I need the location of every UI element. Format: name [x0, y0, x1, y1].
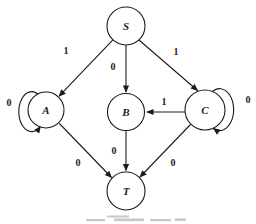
edge-label-A-T: 0 — [76, 157, 81, 168]
edge-label-S-B: 0 — [111, 61, 116, 72]
state-diagram: S A B C T 1 0 1 1 0 0 0 0 0 — [0, 0, 256, 224]
edge-S-to-C — [139, 40, 198, 91]
edge-label-C-B: 1 — [162, 96, 167, 107]
edge-label-S-C: 1 — [174, 46, 179, 57]
edge-A-to-T — [59, 124, 111, 178]
edge-label-C-T: 0 — [171, 157, 176, 168]
edge-label-C-loop: 0 — [246, 94, 251, 105]
caption-fragment — [86, 216, 186, 222]
node-label-C: C — [201, 104, 209, 116]
node-label-B: B — [121, 106, 129, 118]
figure-canvas: S A B C T 1 0 1 1 0 0 0 0 0 — [0, 0, 256, 224]
edge-C-to-T — [140, 125, 191, 178]
edge-label-S-A: 1 — [64, 45, 69, 56]
edge-label-B-T: 0 — [112, 145, 117, 156]
node-label-A: A — [41, 104, 49, 116]
node-label-S: S — [123, 20, 129, 32]
edge-label-A-loop: 0 — [7, 97, 12, 108]
